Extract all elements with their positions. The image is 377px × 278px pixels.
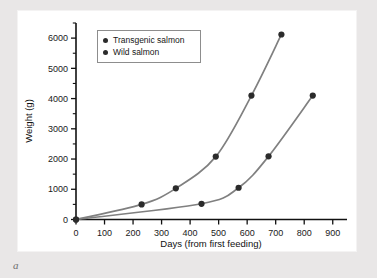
y-tick-label: 0 — [63, 215, 68, 225]
data-point-marker — [173, 185, 179, 191]
legend-label: Wild salmon — [113, 47, 159, 58]
x-tick-label: 200 — [126, 228, 141, 238]
y-tick-label: 4000 — [48, 94, 68, 104]
x-tick-label: 300 — [154, 228, 169, 238]
legend-marker-circle-icon — [103, 38, 108, 43]
y-tick-label: 6000 — [48, 33, 68, 43]
figure-container: 0100020003000400050006000 01002003004005… — [0, 0, 377, 278]
x-axis-tick-labels: 0100200300400500600700800900 — [73, 228, 340, 238]
legend-item-transgenic-salmon: Transgenic salmon — [103, 35, 196, 46]
y-tick-label: 1000 — [48, 184, 68, 194]
data-point-marker — [139, 201, 145, 207]
x-tick-label: 400 — [183, 228, 198, 238]
y-axis-title: Weight (g) — [23, 99, 34, 143]
y-tick-label: 2000 — [48, 154, 68, 164]
y-tick-label: 5000 — [48, 64, 68, 74]
x-tick-label: 500 — [211, 228, 226, 238]
data-point-marker — [213, 154, 219, 160]
x-tick-label: 900 — [325, 228, 340, 238]
chart-legend: Transgenic salmon Wild salmon — [97, 30, 201, 63]
data-point-marker — [198, 201, 204, 207]
x-tick-label: 0 — [73, 228, 78, 238]
series-line — [76, 96, 313, 220]
x-tick-label: 800 — [297, 228, 312, 238]
chart-panel: 0100020003000400050006000 01002003004005… — [18, 11, 356, 251]
data-point-marker — [278, 31, 284, 37]
x-tick-label: 600 — [240, 228, 255, 238]
legend-marker-circle-icon — [103, 50, 108, 55]
data-point-marker — [248, 92, 254, 98]
data-point-marker — [310, 92, 316, 98]
x-tick-label: 700 — [268, 228, 283, 238]
data-point-marker — [73, 216, 79, 222]
x-tick-label: 100 — [97, 228, 112, 238]
legend-label: Transgenic salmon — [113, 35, 185, 46]
figure-caption-label: a — [13, 259, 19, 271]
data-point-marker — [236, 185, 242, 191]
y-tick-label: 3000 — [48, 124, 68, 134]
y-axis-tick-labels: 0100020003000400050006000 — [48, 33, 68, 224]
x-axis-title: Days (from first feeding) — [160, 238, 261, 249]
data-point-marker — [265, 153, 271, 159]
legend-item-wild-salmon: Wild salmon — [103, 47, 196, 58]
